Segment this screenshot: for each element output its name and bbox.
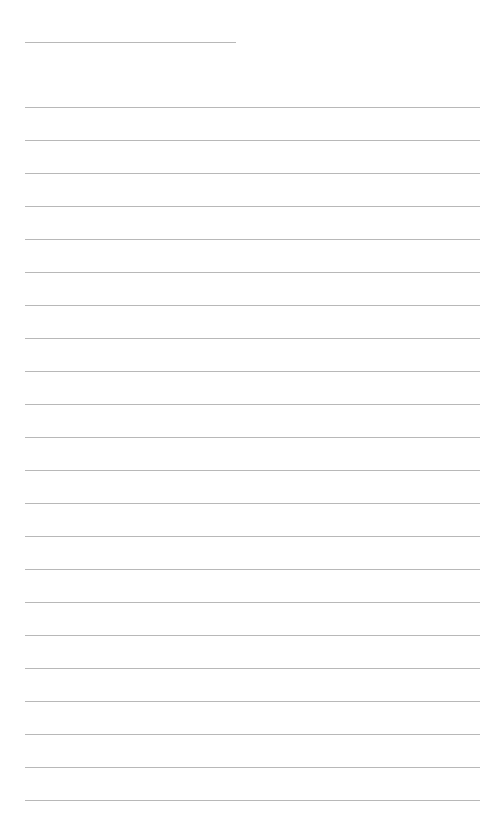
ruled-line [25,635,480,636]
ruled-line [25,602,480,603]
ruled-line [25,536,480,537]
ruled-line [25,437,480,438]
ruled-line [25,734,480,735]
ruled-line [25,569,480,570]
ruled-line [25,668,480,669]
ruled-line [25,470,480,471]
ruled-line [25,800,480,801]
ruled-line [25,404,480,405]
ruled-line [25,272,480,273]
ruled-line [25,173,480,174]
ruled-line [25,371,480,372]
ruled-line [25,503,480,504]
title-underline [25,42,236,43]
ruled-line [25,701,480,702]
ruled-line [25,239,480,240]
ruled-line [25,767,480,768]
ruled-line [25,140,480,141]
ruled-line [25,305,480,306]
ruled-line [25,206,480,207]
ruled-line [25,107,480,108]
ruled-line [25,338,480,339]
lined-page [0,0,493,820]
